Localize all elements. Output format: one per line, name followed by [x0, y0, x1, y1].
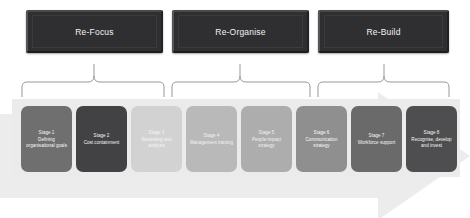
stage-number: Stage 6 [314, 130, 330, 136]
phase-header-label: Re-Organise [215, 27, 265, 37]
stage-number: Stage 1 [39, 130, 55, 136]
stage-title: Reviewing and analysis [134, 137, 179, 149]
stage-box[interactable]: Stage 5 People impact strategy [241, 106, 292, 172]
stage-box[interactable]: Stage 3 Reviewing and analysis [131, 106, 182, 172]
diagram-canvas: Re-Focus Re-Organise Re-Build Stage 1 De… [0, 0, 470, 218]
phase-grouping-braces [0, 53, 470, 100]
stage-number: Stage 7 [369, 133, 385, 139]
stage-title: Management training [190, 140, 233, 146]
stage-number: Stage 4 [204, 133, 220, 139]
stage-list: Stage 1 Defining organisational goals St… [21, 106, 457, 172]
stage-box[interactable]: Stage 4 Management training [186, 106, 237, 172]
stage-title: Defining organisational goals [24, 137, 69, 149]
stage-box[interactable]: Stage 6 Communication strategy [296, 106, 347, 172]
stage-title: People impact strategy [244, 137, 289, 149]
stage-title: Cost containment [84, 140, 120, 146]
stage-box[interactable]: Stage 2 Cost containment [76, 106, 127, 172]
phase-header-re-focus[interactable]: Re-Focus [26, 10, 163, 53]
stage-title: Communication strategy [299, 137, 344, 149]
stage-number: Stage 3 [149, 130, 165, 136]
stage-box[interactable]: Stage 1 Defining organisational goals [21, 106, 72, 172]
stage-number: Stage 5 [259, 130, 275, 136]
phase-header-label: Re-Focus [75, 27, 113, 37]
stage-title: Workforce support [358, 140, 395, 146]
stage-box[interactable]: Stage 8 Recognise, develop and invest [406, 106, 457, 172]
phase-header-re-build[interactable]: Re-Build [318, 10, 449, 53]
phase-header-re-organise[interactable]: Re-Organise [172, 10, 309, 53]
stage-title: Recognise, develop and invest [409, 137, 454, 149]
stage-number: Stage 8 [424, 130, 440, 136]
phase-header-label: Re-Build [366, 27, 400, 37]
stage-box[interactable]: Stage 7 Workforce support [351, 106, 402, 172]
stage-number: Stage 2 [94, 133, 110, 139]
